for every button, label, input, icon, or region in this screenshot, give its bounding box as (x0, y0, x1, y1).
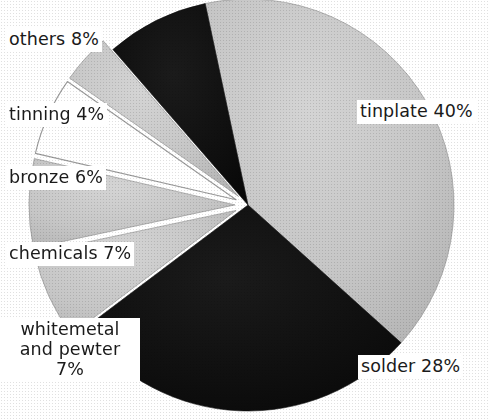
slice-label-bronze: bronze 6% (6, 166, 106, 190)
slice-label-others: others 8% (6, 28, 102, 52)
slice-label-solder: solder 28% (358, 355, 463, 379)
slice-label-chemicals: chemicals 7% (6, 242, 134, 266)
slice-label-whitemetal-line-2: and pewter (20, 339, 121, 359)
slice-label-tinplate: tinplate 40% (357, 100, 476, 124)
slice-label-whitemetal-line-3: 7% (56, 359, 84, 379)
slice-label-whitemetal-line-1: whitemetal (20, 319, 119, 339)
slice-label-tinning: tinning 4% (6, 103, 107, 127)
slice-label-whitemetal-and-pewter: whitemetaland pewter7% (0, 318, 140, 381)
pie-chart-figure: others 8% tinning 4% bronze 6% chemicals… (0, 0, 490, 419)
